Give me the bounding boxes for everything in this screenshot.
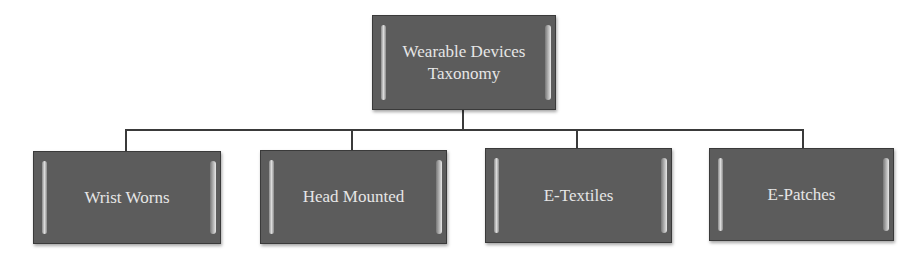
node-label: E-Textiles [544,185,614,207]
node-e-textiles: E-Textiles [485,148,672,243]
node-label: Head Mounted [303,186,405,208]
node-wrist-worns: Wrist Worns [33,151,221,244]
connector-e-patches [802,129,804,148]
root-connector [462,110,464,130]
node-label: Wrist Worns [85,187,170,209]
connector-e-textiles [576,129,578,148]
connector-head-mounted [351,129,353,150]
root-label-line2: Taxonomy [403,63,526,85]
connector-wrist-worns [125,129,127,151]
node-e-patches: E-Patches [709,148,894,241]
node-head-mounted: Head Mounted [260,150,447,244]
node-label: E-Patches [768,184,836,206]
root-label-line1: Wearable Devices [403,41,526,63]
horizontal-connector [125,129,804,131]
root-node: Wearable Devices Taxonomy [372,15,556,110]
